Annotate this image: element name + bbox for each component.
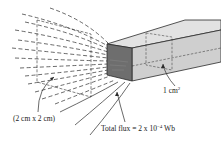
field-lines	[12, 8, 115, 104]
flux-pointer	[117, 92, 125, 122]
bar-area-value: 1 cm	[163, 86, 178, 95]
flux-diagram: (2 cm x 2 cm) 1 cm2 Total flux = 2 x 10−…	[0, 0, 221, 145]
flux-prefix: Total flux = 2 x 10	[101, 124, 157, 133]
bar	[107, 20, 221, 81]
frame-area-text: (2 cm x 2 cm)	[13, 114, 55, 123]
total-flux-label: Total flux = 2 x 10−4 Wb	[101, 125, 175, 133]
bar-area-exponent: 2	[178, 86, 181, 91]
flux-unit: Wb	[162, 124, 175, 133]
frame-area-label: (2 cm x 2 cm)	[13, 115, 55, 123]
frame-pointer	[38, 77, 54, 112]
bar-area-label: 1 cm2	[163, 87, 180, 95]
